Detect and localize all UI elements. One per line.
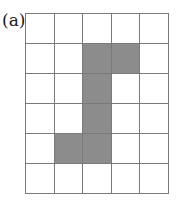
grid-cell [54,163,83,193]
grid-cell [139,163,168,193]
grid-cell [111,163,140,193]
grid-cell [25,133,54,163]
shaded-cell [82,103,111,133]
grid-cell [54,73,83,103]
grid-cell [139,13,168,43]
grid-cell [139,103,168,133]
grid-cell [25,103,54,133]
shaded-cell [82,133,111,163]
grid-cell [82,163,111,193]
grid-cell [111,13,140,43]
grid-cell [25,13,54,43]
grid-cell [111,73,140,103]
grid-cell [139,73,168,103]
shaded-cell [54,133,83,163]
shaded-cell [111,43,140,73]
figure-label: (a) [2,10,25,30]
grid-cell [54,13,83,43]
shape-grid [25,13,169,194]
grid-cell [111,133,140,163]
grid-cell [82,13,111,43]
grid-cell [25,163,54,193]
grid-cell [139,133,168,163]
shaded-cell [82,73,111,103]
grid-cell [54,103,83,133]
grid-cell [25,43,54,73]
grid-cell [111,103,140,133]
shaded-cell [82,43,111,73]
grid-cell [54,43,83,73]
grid-cell [139,43,168,73]
grid-cell [25,73,54,103]
